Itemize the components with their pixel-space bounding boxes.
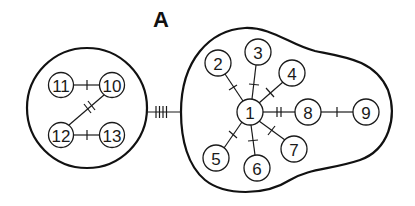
node-4: 4 xyxy=(279,60,305,86)
edge-1-4 xyxy=(259,82,283,103)
node-5: 5 xyxy=(203,145,229,171)
node-label: 1 xyxy=(245,104,254,123)
tree-diagram: A xyxy=(0,0,415,206)
node-3: 3 xyxy=(245,39,271,65)
node-label: 9 xyxy=(361,104,370,123)
node-label: 8 xyxy=(303,104,312,123)
edge-1-8 xyxy=(263,107,295,117)
node-10: 10 xyxy=(100,73,125,98)
node-2: 2 xyxy=(205,50,231,76)
node-6: 6 xyxy=(244,155,270,181)
node-label: 10 xyxy=(103,77,122,96)
edge-1-7 xyxy=(259,121,285,140)
node-label: 3 xyxy=(253,44,262,63)
edge-10-12 xyxy=(69,95,104,125)
panel-label: A xyxy=(153,7,169,32)
cluster-link xyxy=(147,106,181,118)
node-label: 5 xyxy=(211,150,220,169)
node-label: 4 xyxy=(287,65,296,84)
edge-8-9 xyxy=(321,107,353,117)
node-7: 7 xyxy=(281,136,307,162)
node-1: 1 xyxy=(237,99,263,125)
node-label: 2 xyxy=(213,55,222,74)
node-13: 13 xyxy=(100,123,125,148)
edge-1-6 xyxy=(248,125,258,155)
node-label: 7 xyxy=(289,141,298,160)
node-11: 11 xyxy=(49,73,74,98)
node-9: 9 xyxy=(353,99,379,125)
edge-1-2 xyxy=(225,74,243,101)
edge-1-5 xyxy=(224,122,242,148)
node-label: 11 xyxy=(52,77,70,96)
node-12: 12 xyxy=(49,123,74,148)
edge-11-10 xyxy=(73,80,100,90)
node-label: 12 xyxy=(52,127,71,146)
node-label: 6 xyxy=(252,160,261,179)
edge-12-13 xyxy=(73,130,100,140)
node-8: 8 xyxy=(295,99,321,125)
node-label: 13 xyxy=(103,127,122,146)
edge-1-3 xyxy=(249,65,259,99)
